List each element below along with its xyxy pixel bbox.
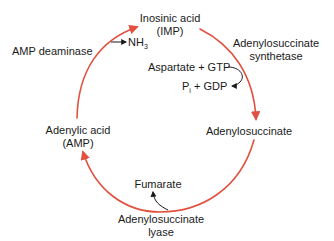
enzyme-synthetase-line2: synthetase <box>249 50 302 62</box>
node-adenylosuccinate: Adenylosuccinate <box>206 125 292 137</box>
product-fumarate: Fumarate <box>134 178 181 190</box>
node-imp-name: Inosinic acid <box>140 12 201 24</box>
arrow-adenylosuccinate-to-amp <box>83 140 254 212</box>
node-amp-name: Adenylic acid <box>46 124 111 136</box>
nh3-base: NH <box>128 36 144 48</box>
gdp-text: + GDP <box>191 80 227 92</box>
enzyme-amp-deaminase: AMP deaminase <box>12 45 93 57</box>
arrow-fumarate-release <box>153 192 168 210</box>
purine-nucleotide-cycle-diagram: Inosinic acid (IMP) Adenylosuccinate Ade… <box>0 0 334 241</box>
enzyme-synthetase-line1: Adenylosuccinate <box>233 37 319 49</box>
cosubstrates-aspartate-gtp: Aspartate + GTP <box>148 61 230 73</box>
node-amp-abbrev: (AMP) <box>62 137 93 149</box>
enzyme-lyase-line2: lyase <box>148 226 174 238</box>
product-nh3: NH3 <box>128 36 148 50</box>
node-imp-abbrev: (IMP) <box>157 25 184 37</box>
enzyme-lyase-line1: Adenylosuccinate <box>118 213 204 225</box>
coproducts-pi-gdp: Pi + GDP <box>182 80 227 94</box>
nh3-subscript: 3 <box>144 43 148 50</box>
pi-base: P <box>182 80 189 92</box>
